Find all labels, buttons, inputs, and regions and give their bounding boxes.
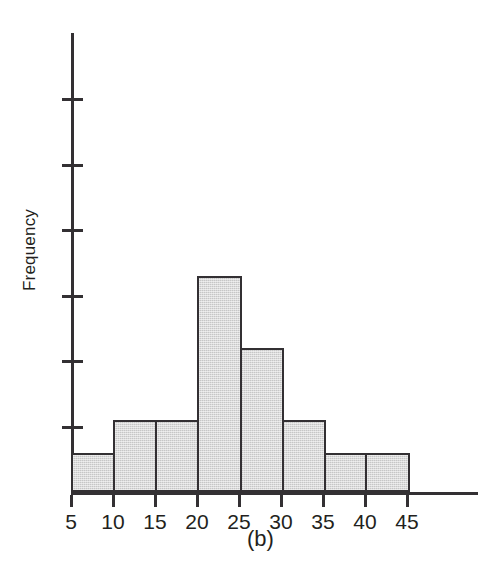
histogram-bar <box>113 420 158 492</box>
x-axis-tick-40 <box>364 495 367 507</box>
histogram-bar <box>71 453 116 492</box>
x-axis-tick-30 <box>280 495 283 507</box>
histogram-bars <box>71 33 478 495</box>
x-axis-tick-45 <box>406 495 409 507</box>
x-axis-tick-25 <box>238 495 241 507</box>
histogram-bar <box>323 453 368 492</box>
histogram-bar <box>197 276 242 492</box>
x-axis-tick-10 <box>112 495 115 507</box>
x-axis-tick-35 <box>322 495 325 507</box>
histogram-bar <box>239 348 284 492</box>
histogram-bar <box>155 420 200 492</box>
x-axis-tick-15 <box>154 495 157 507</box>
plot-area: 51015202530354045 <box>71 33 478 495</box>
figure-caption: (b) <box>71 526 450 552</box>
histogram-bar <box>281 420 326 492</box>
x-axis-tick-5 <box>70 495 73 507</box>
histogram-bar <box>365 453 410 492</box>
y-axis-label: Frequency <box>0 0 60 500</box>
histogram-figure: Frequency 51015202530354045 (b) <box>0 0 492 582</box>
y-axis-label-text: Frequency <box>20 209 40 291</box>
x-axis-tick-20 <box>196 495 199 507</box>
